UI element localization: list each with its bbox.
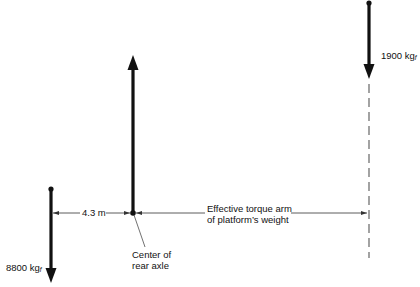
rear-load-label: 8800 kgf	[6, 262, 42, 275]
platform-weight-label: 1900 kgf	[381, 50, 417, 63]
torque-arm-label: Effective torque arm of platform’s weigh…	[207, 203, 292, 225]
rear-load-value: 8800 kg	[6, 262, 40, 273]
axle-leader-line	[134, 215, 145, 247]
torque-diagram	[0, 0, 420, 287]
axle-line2: rear axle	[132, 260, 171, 271]
axle-support-arrow	[128, 55, 139, 216]
platform-weight-value: 1900 kg	[381, 50, 415, 61]
torque-arm-line1: Effective torque arm	[207, 203, 292, 214]
platform-weight-subscript: f	[415, 54, 417, 61]
axle-line1: Center of	[132, 249, 171, 260]
distance-label: 4.3 m	[82, 207, 106, 218]
axle-label: Center of rear axle	[132, 249, 171, 271]
rear-load-arrow	[46, 186, 57, 283]
rear-load-subscript: f	[40, 266, 42, 273]
torque-arm-line2: of platform’s weight	[207, 214, 292, 225]
platform-weight-arrow	[364, 0, 375, 79]
